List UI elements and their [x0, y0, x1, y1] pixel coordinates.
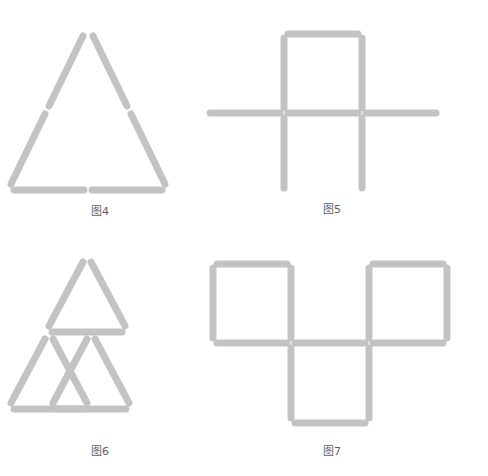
figure-7: [195, 248, 488, 443]
matchstick-bottom-right-tri-right: [95, 339, 129, 403]
matchstick-top-triangle-left: [49, 262, 83, 326]
figure-6: [0, 248, 200, 438]
matchstick-right-side-lower: [131, 114, 165, 184]
figure-7-caption: 图7: [292, 445, 372, 458]
figures-board: 图4 图5 图6 图7: [0, 0, 488, 476]
figure-5-caption: 图5: [292, 203, 372, 216]
figure-5: [200, 14, 488, 204]
matchstick-left-side-lower: [11, 114, 45, 184]
figure-4-canvas: [0, 14, 200, 204]
figure-7-canvas: [195, 248, 488, 443]
matchstick-right-side-upper: [93, 36, 127, 106]
figure-4-caption: 图4: [60, 205, 140, 218]
figure-5-canvas: [200, 14, 488, 204]
matchstick-left-side-upper: [49, 36, 83, 106]
matchstick-top-triangle-right: [91, 262, 125, 326]
figure-6-caption: 图6: [60, 445, 140, 458]
matchstick-bottom-left-tri-left: [11, 339, 45, 403]
figure-4: [0, 14, 200, 204]
figure-6-canvas: [0, 248, 200, 438]
